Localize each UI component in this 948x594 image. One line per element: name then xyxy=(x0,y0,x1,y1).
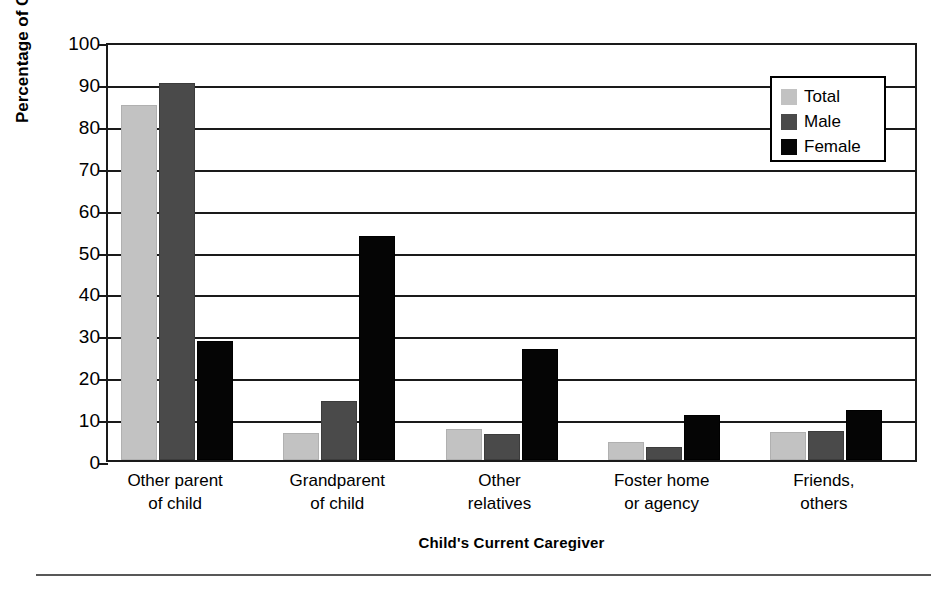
bar-group xyxy=(121,45,233,460)
bar-female xyxy=(684,415,720,460)
x-category-label-line: of child xyxy=(90,493,260,516)
bar-female xyxy=(846,410,882,460)
bottom-divider xyxy=(36,574,931,576)
x-category-label-line: Foster home xyxy=(577,470,747,493)
bar-male xyxy=(159,83,195,460)
x-category-label: Grandparentof child xyxy=(252,470,422,516)
y-axis-title: Percentage of Children xyxy=(13,0,33,170)
y-tick-label: 60 xyxy=(79,201,100,220)
x-category-label: Friends,others xyxy=(739,470,909,516)
legend-swatch-icon xyxy=(781,114,797,130)
x-category-label-line: relatives xyxy=(415,493,585,516)
y-tick-label: 10 xyxy=(79,411,100,430)
bar-female xyxy=(359,236,395,460)
y-tickmark xyxy=(99,212,108,214)
y-tickmark xyxy=(99,44,108,46)
y-tickmark xyxy=(99,463,108,465)
bar-female xyxy=(522,349,558,460)
y-tickmark xyxy=(99,128,108,130)
y-tick-label: 90 xyxy=(79,75,100,94)
y-tickmark xyxy=(99,337,108,339)
bar-male xyxy=(484,434,520,460)
y-tick-label: 30 xyxy=(79,327,100,346)
y-tickmark xyxy=(99,254,108,256)
y-tick-label: 20 xyxy=(79,369,100,388)
legend-swatch-icon xyxy=(781,139,797,155)
x-axis-category-labels: Other parentof childGrandparentof childO… xyxy=(106,470,917,526)
legend-item-total: Total xyxy=(781,84,884,109)
legend-label: Total xyxy=(804,88,840,105)
bar-male xyxy=(808,431,844,460)
y-tickmark xyxy=(99,170,108,172)
x-category-label-line: or agency xyxy=(577,493,747,516)
y-tickmark xyxy=(99,295,108,297)
x-category-label: Foster homeor agency xyxy=(577,470,747,516)
legend: TotalMaleFemale xyxy=(770,76,886,162)
x-category-label-line: Grandparent xyxy=(252,470,422,493)
x-category-label-line: Other xyxy=(415,470,585,493)
x-category-label-line: Other parent xyxy=(90,470,260,493)
bar-female xyxy=(197,341,233,460)
y-axis-tick-labels: 0102030405060708090100 xyxy=(52,43,100,462)
y-tick-label: 40 xyxy=(79,285,100,304)
y-tick-label: 80 xyxy=(79,117,100,136)
legend-item-male: Male xyxy=(781,109,884,134)
bar-male xyxy=(646,447,682,460)
y-tick-label: 70 xyxy=(79,159,100,178)
y-tick-label: 50 xyxy=(79,243,100,262)
y-tickmark xyxy=(99,379,108,381)
legend-item-female: Female xyxy=(781,134,884,159)
bar-total xyxy=(608,442,644,460)
x-category-label-line: of child xyxy=(252,493,422,516)
bar-total xyxy=(121,105,157,460)
bar-total xyxy=(283,433,319,460)
bar-total xyxy=(446,429,482,460)
x-axis-title: Child's Current Caregiver xyxy=(106,534,917,551)
bar-male xyxy=(321,401,357,460)
legend-swatch-icon xyxy=(781,89,797,105)
bar-group xyxy=(283,45,395,460)
x-category-label-line: Friends, xyxy=(739,470,909,493)
bar-group xyxy=(608,45,720,460)
y-tick-label: 100 xyxy=(68,34,100,53)
bar-total xyxy=(770,432,806,460)
figure: Percentage of Children 01020304050607080… xyxy=(0,0,948,594)
y-tick-label: 0 xyxy=(89,453,100,472)
bar-group xyxy=(446,45,558,460)
x-category-label: Otherrelatives xyxy=(415,470,585,516)
x-category-label-line: others xyxy=(739,493,909,516)
x-category-label: Other parentof child xyxy=(90,470,260,516)
y-tickmark xyxy=(99,421,108,423)
y-tickmark xyxy=(99,86,108,88)
legend-label: Male xyxy=(804,113,841,130)
legend-label: Female xyxy=(804,138,861,155)
